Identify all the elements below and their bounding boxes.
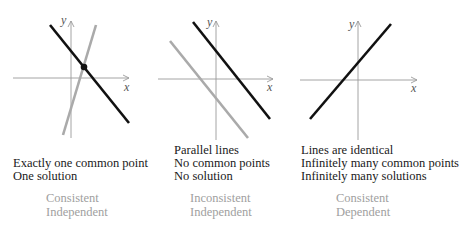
panel-no-solution-classification: Inconsistent Independent: [190, 191, 252, 219]
description-line: Infinitely many solutions: [301, 170, 459, 183]
y-axis-label: y: [348, 17, 355, 31]
panel-one-solution-graph: y x: [13, 13, 130, 138]
description-line: One solution: [13, 170, 148, 183]
black-line: [310, 24, 391, 119]
black-line: [193, 22, 270, 119]
black-line: [50, 25, 129, 123]
classification-line: Consistent: [46, 191, 108, 205]
x-axis-label: x: [410, 81, 417, 95]
x-axis-label: x: [123, 80, 130, 94]
classification-line: Dependent: [336, 205, 390, 219]
y-axis-label: y: [60, 13, 67, 27]
y-axis-label: y: [206, 15, 213, 29]
classification-line: Independent: [46, 205, 108, 219]
classification-line: Independent: [190, 205, 252, 219]
panel-one-solution-description: Exactly one common point One solution: [13, 157, 148, 183]
panel-infinite-solutions-graph: y x: [300, 17, 417, 140]
gray-line: [63, 25, 96, 135]
panel-no-solution-graph: y x: [158, 15, 273, 140]
gray-line: [170, 41, 248, 138]
panel-infinite-solutions-description: Lines are identical Infinitely many comm…: [301, 144, 459, 183]
classification-line: Inconsistent: [190, 191, 252, 205]
panel-infinite-solutions-classification: Consistent Dependent: [336, 191, 390, 219]
classification-line: Consistent: [336, 191, 390, 205]
description-line: No solution: [174, 170, 270, 183]
panel-no-solution-description: Parallel lines No common points No solut…: [174, 144, 270, 183]
intersection-point: [81, 64, 88, 71]
panel-one-solution-classification: Consistent Independent: [46, 191, 108, 219]
x-axis-label: x: [266, 80, 273, 94]
